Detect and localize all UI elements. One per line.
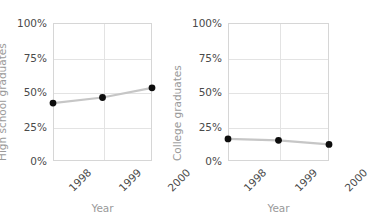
plot-area-high-school-graduates xyxy=(53,23,152,161)
gridline-horizontal xyxy=(229,128,328,129)
y-axis-title: High school graduates xyxy=(0,43,8,161)
x-axis-tick-label: 2000 xyxy=(343,167,369,193)
plot-area-college-graduates xyxy=(228,23,329,161)
x-axis-title: Year xyxy=(53,203,152,214)
gridline-horizontal xyxy=(229,59,328,60)
chart-panel-high-school-graduates: 0%25%50%75%100%199819992000YearHigh scho… xyxy=(0,0,176,215)
x-axis-tick-label: 1998 xyxy=(242,167,268,193)
gridline-horizontal xyxy=(54,93,151,94)
y-axis-tick-label: 75% xyxy=(174,53,222,64)
y-axis-tick-label: 100% xyxy=(0,18,47,29)
x-axis-tick-label: 1998 xyxy=(67,167,93,193)
gridline-horizontal xyxy=(54,59,151,60)
x-axis-tick-label: 1999 xyxy=(116,167,142,193)
gridline-vertical xyxy=(280,24,281,160)
x-axis-tick-label: 1999 xyxy=(292,167,318,193)
gridline-horizontal xyxy=(54,128,151,129)
chart-panel-college-graduates: 0%25%50%75%100%199819992000YearCollege g… xyxy=(176,0,352,215)
gridline-vertical xyxy=(104,24,105,160)
y-axis-tick-label: 100% xyxy=(174,18,222,29)
x-axis-title: Year xyxy=(228,203,329,214)
y-axis-title: College graduates xyxy=(172,65,183,161)
gridline-horizontal xyxy=(229,93,328,94)
